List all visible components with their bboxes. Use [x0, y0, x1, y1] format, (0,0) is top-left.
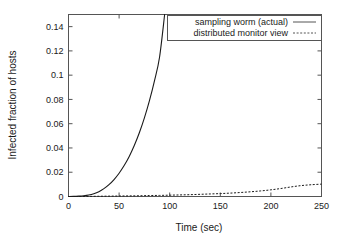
x-tick-label: 0	[66, 201, 71, 211]
x-tick-label: 150	[213, 201, 228, 211]
y-tick-label: 0.06	[46, 119, 64, 129]
legend-label-1: distributed monitor view	[193, 28, 288, 38]
line-chart: 00.020.040.060.080.10.120.14 05010015020…	[0, 0, 344, 245]
x-tick-label: 100	[162, 201, 177, 211]
x-tick-label: 200	[263, 201, 278, 211]
y-axis-title: Infected fraction of hosts	[7, 51, 18, 160]
y-tick-label: 0.02	[46, 167, 64, 177]
x-axis-title: Time (sec)	[176, 222, 223, 233]
chart-figure: 00.020.040.060.080.10.120.14 05010015020…	[0, 0, 344, 245]
y-tick-label: 0.14	[46, 22, 64, 32]
y-tick-label: 0.1	[51, 70, 64, 80]
y-tick-label: 0.08	[46, 95, 64, 105]
legend: sampling worm (actual) distributed monit…	[168, 16, 322, 41]
x-tick-label: 250	[314, 201, 329, 211]
legend-label-0: sampling worm (actual)	[195, 17, 288, 27]
y-tick-label: 0	[58, 192, 63, 202]
y-tick-label: 0.04	[46, 143, 64, 153]
x-tick-label: 50	[114, 201, 124, 211]
y-tick-label: 0.12	[46, 46, 64, 56]
